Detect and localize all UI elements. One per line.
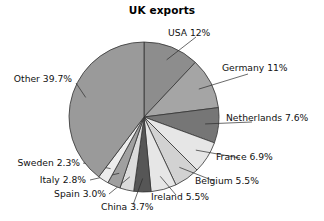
- slice-label-france: France 6.9%: [216, 152, 273, 162]
- slice-label-germany: Germany 11%: [222, 63, 288, 73]
- slice-label-other: Other 39.7%: [0, 74, 72, 84]
- slice-label-ireland: Ireland 5.5%: [151, 192, 209, 202]
- slice-label-belgium: Belgium 5.5%: [195, 176, 259, 186]
- pie-chart-figure: UK exports USA 12% Germany 11% Netherlan…: [0, 0, 324, 221]
- pie-chart-canvas: [0, 0, 324, 221]
- slice-label-sweden: Sweden 2.3%: [0, 158, 80, 168]
- slice-label-spain: Spain 3.0%: [0, 189, 106, 199]
- slice-label-netherlands: Netherlands 7.6%: [226, 113, 308, 123]
- slice-label-china: China 3.7%: [101, 202, 154, 212]
- slice-label-italy: Italy 2.8%: [0, 175, 86, 185]
- slice-label-usa: USA 12%: [168, 28, 210, 38]
